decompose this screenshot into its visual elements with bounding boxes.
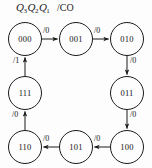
state-label-000: 000	[8, 34, 42, 44]
edge-label-001-010: /0	[94, 26, 100, 35]
state-diagram-figure: Q3Q2Q1 /CO 000 001 010 011 100 101 110 1…	[0, 0, 152, 168]
state-label-111: 111	[8, 88, 42, 98]
edge-label-111-000: /1	[13, 56, 19, 65]
state-label-011: 011	[110, 88, 144, 98]
edge-label-011-100: /0	[130, 110, 136, 119]
state-label-010: 010	[110, 34, 144, 44]
edge-label-101-110: /0	[43, 134, 49, 143]
state-label-100: 100	[110, 142, 144, 152]
state-label-001: 001	[59, 34, 93, 44]
state-label-110: 110	[8, 142, 42, 152]
edge-label-000-001: /0	[43, 26, 49, 35]
edge-label-100-101: /0	[94, 134, 100, 143]
output-header: /CO	[57, 2, 74, 13]
state-variable-header: Q3Q2Q1	[16, 1, 50, 13]
edge-label-010-011: /0	[130, 56, 136, 65]
state-label-101: 101	[59, 142, 93, 152]
edge-label-110-111: /0	[12, 110, 18, 119]
